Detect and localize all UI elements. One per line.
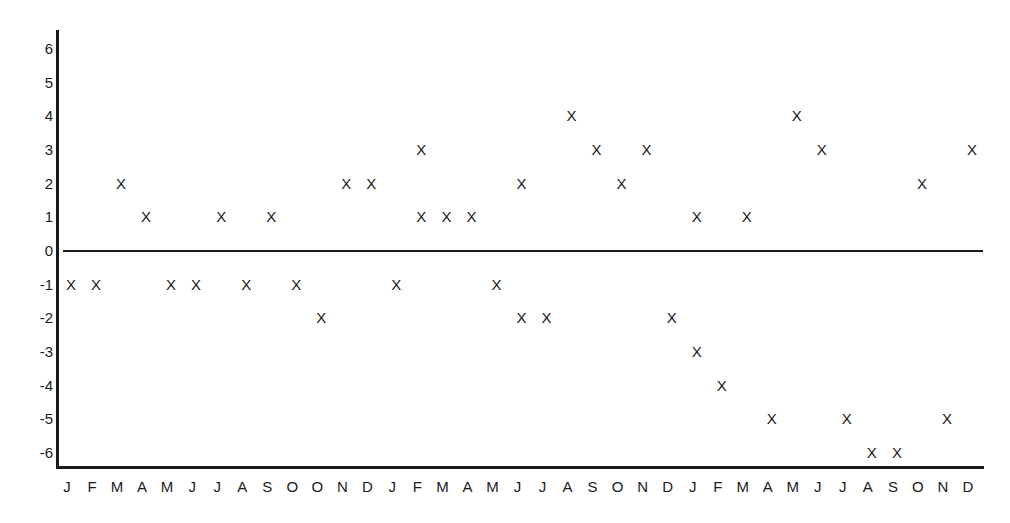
x-tick-label: A: [856, 478, 880, 496]
y-tick-label: 1: [13, 208, 53, 226]
y-tick-label: 2: [13, 175, 53, 193]
x-marker-icon: X: [687, 343, 707, 361]
x-marker-icon: X: [86, 276, 106, 294]
zero-reference-line: [63, 250, 983, 252]
x-tick-label: J: [506, 478, 530, 496]
x-marker-icon: X: [336, 175, 356, 193]
x-tick-label: M: [430, 478, 454, 496]
x-tick-label: J: [180, 478, 204, 496]
y-tick-label: -3: [13, 343, 53, 361]
x-tick-label: M: [731, 478, 755, 496]
x-marker-icon: X: [662, 309, 682, 327]
y-tick-label: -4: [13, 377, 53, 395]
y-tick-label: 4: [13, 107, 53, 125]
x-marker-icon: X: [411, 141, 431, 159]
x-tick-label: O: [906, 478, 930, 496]
x-tick-label: D: [956, 478, 980, 496]
x-tick-label: S: [881, 478, 905, 496]
x-marker-icon: X: [61, 276, 81, 294]
x-tick-label: N: [330, 478, 354, 496]
x-tick-label: J: [205, 478, 229, 496]
y-tick-label: -1: [13, 276, 53, 294]
x-tick-label: F: [706, 478, 730, 496]
x-marker-icon: X: [612, 175, 632, 193]
x-marker-icon: X: [236, 276, 256, 294]
x-marker-icon: X: [687, 208, 707, 226]
x-tick-label: J: [831, 478, 855, 496]
y-tick-label: 5: [13, 74, 53, 92]
x-tick-label: A: [130, 478, 154, 496]
x-marker-icon: X: [286, 276, 306, 294]
x-marker-icon: X: [186, 276, 206, 294]
x-marker-icon: X: [512, 309, 532, 327]
x-marker-icon: X: [837, 410, 857, 428]
x-tick-label: M: [105, 478, 129, 496]
x-marker-icon: X: [762, 410, 782, 428]
x-marker-icon: X: [361, 175, 381, 193]
x-tick-label: O: [280, 478, 304, 496]
x-axis-line: [56, 466, 984, 469]
y-tick-label: -2: [13, 309, 53, 327]
x-marker-icon: X: [787, 107, 807, 125]
x-marker-icon: X: [887, 444, 907, 462]
x-marker-icon: X: [261, 208, 281, 226]
x-marker-icon: X: [537, 309, 557, 327]
x-marker-icon: X: [912, 175, 932, 193]
x-marker-icon: X: [962, 141, 982, 159]
x-marker-icon: X: [136, 208, 156, 226]
x-marker-icon: X: [486, 276, 506, 294]
x-marker-icon: X: [712, 377, 732, 395]
x-tick-label: A: [230, 478, 254, 496]
x-marker-icon: X: [436, 208, 456, 226]
x-marker-icon: X: [737, 208, 757, 226]
x-marker-icon: X: [512, 175, 532, 193]
x-marker-icon: X: [161, 276, 181, 294]
x-marker-icon: X: [862, 444, 882, 462]
x-marker-icon: X: [637, 141, 657, 159]
x-tick-label: A: [455, 478, 479, 496]
x-marker-icon: X: [562, 107, 582, 125]
x-tick-label: J: [380, 478, 404, 496]
x-marker-icon: X: [386, 276, 406, 294]
y-tick-label: 0: [13, 242, 53, 260]
x-marker-icon: X: [937, 410, 957, 428]
y-tick-label: -6: [13, 444, 53, 462]
x-tick-label: O: [606, 478, 630, 496]
x-marker-icon: X: [812, 141, 832, 159]
x-tick-label: N: [931, 478, 955, 496]
x-marker-icon: X: [111, 175, 131, 193]
y-tick-label: 6: [13, 40, 53, 58]
x-tick-label: O: [305, 478, 329, 496]
x-tick-label: M: [480, 478, 504, 496]
x-tick-label: M: [781, 478, 805, 496]
scatter-chart: 6543210-1-2-3-4-5-6 JFMAMJJASOONDJFMAMJJ…: [0, 0, 1010, 523]
y-tick-label: 3: [13, 141, 53, 159]
x-tick-label: A: [756, 478, 780, 496]
x-tick-label: J: [55, 478, 79, 496]
x-marker-icon: X: [411, 208, 431, 226]
x-tick-label: D: [656, 478, 680, 496]
y-tick-label: -5: [13, 410, 53, 428]
x-tick-label: F: [405, 478, 429, 496]
x-marker-icon: X: [461, 208, 481, 226]
x-marker-icon: X: [311, 309, 331, 327]
y-axis-line: [56, 30, 59, 469]
x-marker-icon: X: [587, 141, 607, 159]
x-tick-label: S: [581, 478, 605, 496]
x-tick-label: J: [681, 478, 705, 496]
x-tick-label: F: [80, 478, 104, 496]
x-tick-label: M: [155, 478, 179, 496]
x-tick-label: D: [355, 478, 379, 496]
x-tick-label: S: [255, 478, 279, 496]
x-tick-label: A: [556, 478, 580, 496]
x-tick-label: J: [806, 478, 830, 496]
x-tick-label: N: [631, 478, 655, 496]
x-tick-label: J: [531, 478, 555, 496]
x-marker-icon: X: [211, 208, 231, 226]
